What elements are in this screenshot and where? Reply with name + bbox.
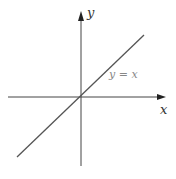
y-axis-label: y (87, 5, 94, 20)
graph-canvas (0, 0, 176, 179)
x-axis-arrow-icon (157, 94, 166, 100)
y-axis-arrow-icon (78, 11, 84, 21)
equation-label: y = x (109, 68, 138, 81)
x-axis-label: x (160, 102, 167, 117)
